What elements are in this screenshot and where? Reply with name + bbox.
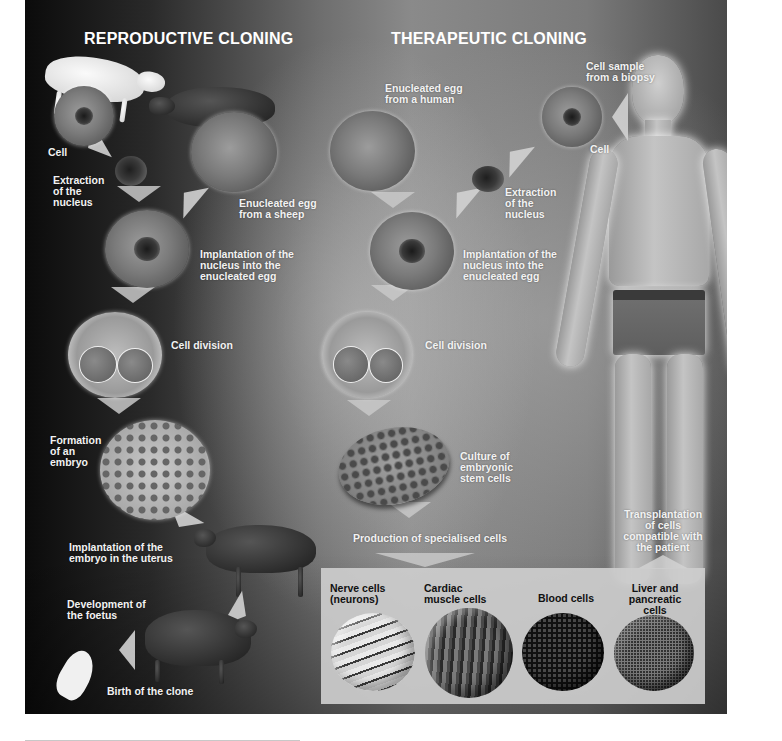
- label-enucleated-egg: Enucleated egg from a sheep: [239, 198, 317, 220]
- surrogate-sheep: [206, 525, 316, 573]
- dividing-human-cell: [322, 312, 412, 398]
- arrow-icon: [375, 553, 475, 567]
- label-nerve-cells: Nerve cells (neurons): [330, 583, 385, 605]
- label-cell: Cell: [48, 147, 67, 158]
- arrow-icon: [171, 178, 209, 219]
- stem-cell-culture-dish: [331, 417, 456, 515]
- implanted-human-egg: [370, 212, 454, 290]
- enucleated-sheep-egg: [191, 112, 277, 192]
- arrow-icon: [111, 287, 155, 303]
- therapeutic-cloning-heading: THERAPEUTIC CLONING: [391, 30, 587, 48]
- nerve-cell-sphere-icon: [331, 613, 415, 691]
- enucleated-human-egg: [330, 111, 415, 191]
- cloned-lamb: [51, 646, 102, 704]
- arrow-icon: [497, 137, 535, 178]
- label-biopsy: Cell sample from a biopsy: [586, 61, 655, 83]
- arrow-icon: [612, 93, 628, 141]
- embryo: [100, 420, 210, 520]
- pregnant-sheep: [145, 610, 251, 666]
- label-therapeutic-cell-division: Cell division: [425, 340, 487, 351]
- label-production: Production of specialised cells: [353, 533, 507, 544]
- patient-cell: [542, 87, 602, 147]
- label-embryo: Formation of an embryo: [50, 435, 101, 468]
- donor-cell: [54, 86, 114, 146]
- label-extraction: Extraction of the nucleus: [53, 175, 104, 208]
- cloning-diagram: REPRODUCTIVE CLONING Cell Extraction of …: [25, 0, 727, 714]
- cardiac-cell-sphere-icon: [425, 608, 513, 698]
- label-liver-cells: Liver and pancreatic cells: [619, 583, 691, 616]
- label-therapeutic-cell: Cell: [590, 144, 609, 155]
- arrow-icon: [97, 398, 141, 414]
- label-implantation-uterus: Implantation of the embryo in the uterus: [69, 542, 173, 564]
- blood-cell-sphere-icon: [522, 613, 604, 691]
- extracted-nucleus: [115, 156, 147, 186]
- arrow-icon: [119, 630, 135, 670]
- label-cell-division: Cell division: [171, 340, 233, 351]
- implanted-egg: [105, 210, 189, 288]
- label-foetus: Development of the foetus: [67, 599, 146, 621]
- extracted-human-nucleus: [472, 166, 504, 192]
- arrow-icon: [347, 400, 391, 416]
- label-implantation-nucleus: Implantation of the nucleus into the enu…: [200, 249, 294, 282]
- label-culture: Culture of embryonic stem cells: [460, 451, 513, 484]
- arrow-icon: [371, 192, 415, 208]
- label-enucleated-human-egg: Enucleated egg from a human: [385, 83, 463, 105]
- label-transplantation: Transplantation of cells compatible with…: [613, 509, 713, 553]
- reproductive-cloning-heading: REPRODUCTIVE CLONING: [84, 30, 293, 48]
- label-therapeutic-extraction: Extraction of the nucleus: [505, 187, 556, 220]
- arrow-icon: [637, 555, 689, 569]
- arrow-icon: [117, 186, 161, 202]
- label-blood-cells: Blood cells: [538, 593, 594, 604]
- dividing-cell: [68, 312, 162, 398]
- liver-cell-sphere-icon: [614, 615, 694, 691]
- label-cardiac-cells: Cardiac muscle cells: [424, 583, 486, 605]
- label-birth: Birth of the clone: [107, 686, 193, 697]
- label-therapeutic-implantation: Implantation of the nucleus into the enu…: [463, 249, 557, 282]
